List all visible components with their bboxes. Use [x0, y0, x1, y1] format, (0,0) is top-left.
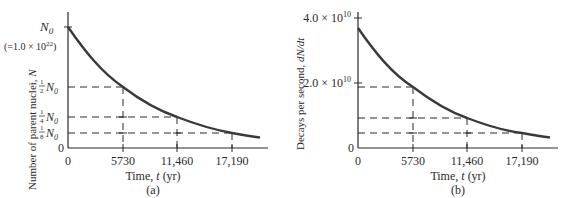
panel-b-xtick-label: 0 [355, 154, 361, 168]
svg-text:N0: N0 [45, 110, 58, 126]
panel-a-xtick-label: 5730 [111, 154, 135, 168]
panel-a-caption: (a) [146, 183, 159, 197]
panel-a-label-half: 1 2 N0 [39, 78, 58, 96]
panel-a-n0-annotation: (=1.0 × 1022) [4, 40, 56, 53]
svg-text:1: 1 [40, 124, 44, 132]
panel-a-decay-curve [68, 27, 260, 138]
panel-b-guides [358, 87, 522, 148]
panel-b-guide-crosses [409, 118, 471, 133]
panel-a-guide-crosses [119, 117, 181, 133]
panel-b-xtick-label: 5730 [401, 154, 425, 168]
panel-a-y-axis-title: Number of parent nuclei, N [26, 69, 38, 190]
panel-b-label-zero: 0 [348, 141, 354, 155]
svg-text:1: 1 [40, 108, 44, 116]
panel-b-caption: (b) [451, 183, 465, 197]
panel-b-ytick-label-2e10: 2.0 × 1010 [303, 75, 351, 90]
svg-text:N0: N0 [45, 126, 58, 142]
svg-text:8: 8 [40, 133, 44, 141]
panel-a-x-axis-title: Time, t (yr) [125, 169, 180, 183]
panel-b-ytick-label-4e10: 4.0 × 1010 [303, 10, 351, 25]
panel-a: N0 (=1.0 × 1022) 1 2 N0 1 4 N0 1 8 N0 0 … [4, 12, 268, 197]
panel-a-xtick-label: 0 [65, 154, 71, 168]
panel-a-label-eighth: 1 8 N0 [39, 124, 58, 142]
panel-b: 4.0 × 1010 2.0 × 1010 0 Decays per secon… [294, 10, 558, 197]
panel-b-decay-curve [358, 28, 550, 138]
panel-b-xtick-label: 11,460 [451, 154, 484, 168]
panel-a-xtick-label: 11,460 [161, 154, 194, 168]
panel-b-xtick-label: 17,190 [506, 154, 539, 168]
panel-a-xtick-label: 17,190 [216, 154, 249, 168]
panel-b-y-axis-title: Decays per second, dN/dt [294, 37, 306, 150]
radioactive-decay-figure: N0 (=1.0 × 1022) 1 2 N0 1 4 N0 1 8 N0 0 … [0, 0, 564, 198]
panel-b-x-axis-title: Time, t (yr) [430, 169, 485, 183]
svg-text:1: 1 [40, 78, 44, 86]
panel-a-label-zero: 0 [58, 141, 64, 155]
svg-text:2: 2 [40, 87, 44, 95]
svg-text:N0: N0 [45, 80, 58, 96]
panel-a-guides [68, 87, 232, 148]
panel-a-label-n0: N0 [39, 19, 54, 36]
